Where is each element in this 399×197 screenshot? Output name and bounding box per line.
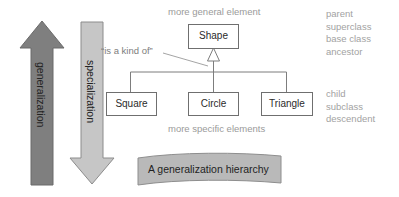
generalization-arrowhead-icon (208, 48, 220, 61)
leader-line-is-a-kind-of (163, 53, 208, 66)
class-label-square: Square (106, 98, 157, 109)
child-terms-list: child subclass descendent (326, 88, 375, 126)
parent-term-item: superclass (326, 21, 371, 34)
class-label-shape: Shape (188, 30, 239, 41)
specialization-arrow-label: specialization (85, 60, 97, 123)
annotation-more-general-element: more general element (168, 6, 260, 18)
parent-term-item: parent (326, 8, 371, 21)
diagram-canvas: generalization specialization more gener… (0, 0, 399, 197)
parent-term-item: ancestor (326, 46, 371, 59)
class-label-circle: Circle (188, 98, 239, 109)
child-term-item: descendent (326, 113, 375, 126)
parent-term-item: base class (326, 33, 371, 46)
generalization-arrow-label: generalization (35, 62, 47, 127)
child-term-item: child (326, 88, 375, 101)
parent-terms-list: parent superclass base class ancestor (326, 8, 371, 58)
annotation-more-specific-elements: more specific elements (168, 123, 265, 135)
class-label-triangle: Triangle (261, 98, 313, 109)
annotation-is-a-kind-of: “is a kind of” (101, 45, 153, 57)
caption-label: A generalization hierarchy (148, 163, 269, 175)
child-term-item: subclass (326, 101, 375, 114)
